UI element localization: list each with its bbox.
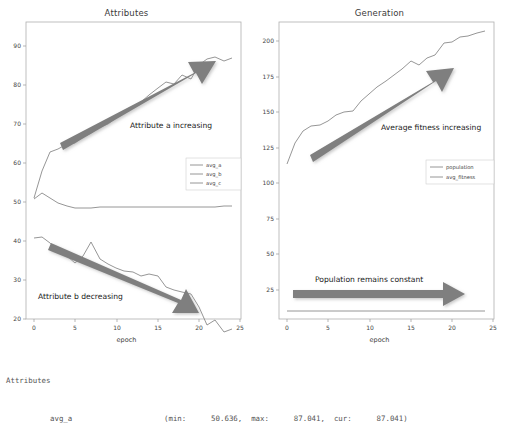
- legend-label-avg_fitness: avg_fitness: [446, 174, 476, 181]
- chart-panel-generation: Generation 25 50 75 100 125 150 175 200 …: [253, 0, 506, 345]
- svg-text:200: 200: [263, 37, 275, 44]
- svg-text:20: 20: [13, 315, 21, 322]
- report-row: avg_a(min:50.636, max:87.041, cur:87.041…: [0, 414, 506, 423]
- svg-text:60: 60: [13, 159, 21, 166]
- legend-label-avg_a: avg_a: [206, 162, 221, 169]
- x-axis-label-generation: epoch: [253, 336, 506, 344]
- annotation-label-attribute-b-decreasing: Attribute b decreasing: [38, 292, 123, 301]
- svg-text:175: 175: [263, 73, 275, 80]
- y-axis-ticks: 25 50 75 100 125 150 175 200: [263, 37, 279, 293]
- svg-text:0: 0: [285, 324, 289, 331]
- report-min-label: (min:: [164, 414, 186, 423]
- legend-attributes: avg_a avg_b avg_c: [186, 158, 241, 190]
- svg-text:5: 5: [326, 324, 330, 331]
- x-axis-ticks: 0 5 10 15 20 25: [32, 319, 244, 331]
- x-axis-label-attributes: epoch: [0, 336, 253, 344]
- annotation-label-average-fitness-increasing: Average fitness increasing: [381, 123, 481, 132]
- annotation-label-attribute-a-increasing: Attribute a increasing: [130, 121, 212, 130]
- svg-text:80: 80: [13, 81, 21, 88]
- report-group-header: Attributes: [0, 376, 506, 385]
- stats-report: Attributes avg_a(min:50.636, max:87.041,…: [0, 348, 506, 431]
- report-min-value: 50.636,: [186, 414, 242, 423]
- svg-text:70: 70: [13, 120, 21, 127]
- report-max-value: 87.041,: [269, 414, 325, 423]
- svg-text:20: 20: [195, 324, 203, 331]
- svg-text:25: 25: [266, 286, 274, 293]
- svg-text:15: 15: [407, 324, 415, 331]
- annotation-label-population-remains-constant: Population remains constant: [315, 275, 423, 284]
- svg-text:40: 40: [13, 237, 21, 244]
- report-cur-value: 87.041): [352, 414, 408, 423]
- legend-label-avg_b: avg_b: [206, 171, 222, 178]
- report-row-name: avg_a: [6, 414, 164, 423]
- svg-text:50: 50: [266, 250, 274, 257]
- svg-text:20: 20: [448, 324, 456, 331]
- svg-text:25: 25: [489, 324, 497, 331]
- legend-label-avg_c: avg_c: [206, 180, 221, 187]
- generation-plot-svg: 25 50 75 100 125 150 175 200 0 5 10 15 2…: [253, 0, 506, 345]
- legend-generation: population avg_fitness: [426, 160, 494, 184]
- report-cur-label: cur:: [334, 414, 352, 423]
- svg-text:10: 10: [366, 324, 374, 331]
- svg-text:150: 150: [263, 108, 275, 115]
- x-axis-ticks: 0 5 10 15 20 25: [285, 319, 497, 331]
- legend-label-population: population: [446, 164, 474, 171]
- svg-text:100: 100: [263, 179, 275, 186]
- svg-text:5: 5: [73, 324, 77, 331]
- svg-text:0: 0: [32, 324, 36, 331]
- chart-panel-attributes: Attributes 20 30 40 50 60 70 80 90 0 5 1…: [0, 0, 253, 345]
- y-axis-ticks: 20 30 40 50 60 70 80 90: [13, 42, 26, 322]
- svg-text:25: 25: [236, 324, 244, 331]
- svg-text:30: 30: [13, 276, 21, 283]
- svg-text:125: 125: [263, 144, 275, 151]
- attributes-plot-svg: 20 30 40 50 60 70 80 90 0 5 10 15 20 25 …: [0, 0, 253, 345]
- svg-text:10: 10: [113, 324, 121, 331]
- svg-text:50: 50: [13, 198, 21, 205]
- svg-text:15: 15: [154, 324, 162, 331]
- svg-text:75: 75: [266, 215, 274, 222]
- report-max-label: max:: [251, 414, 269, 423]
- svg-text:90: 90: [13, 42, 21, 49]
